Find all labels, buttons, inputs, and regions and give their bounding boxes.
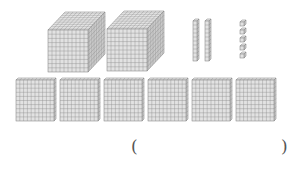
hundred-flat-4: [148, 78, 188, 121]
unit-cube-5: [240, 52, 246, 58]
answer-open-paren: (: [131, 138, 138, 155]
unit-cube-3: [240, 36, 246, 42]
unit-cube-2: [240, 28, 246, 34]
hundred-flat-1: [16, 78, 56, 121]
hundred-flat-3: [104, 78, 144, 121]
hundred-flat-5: [192, 78, 232, 121]
thousand-cube-1: [48, 12, 105, 72]
thousand-cube-2: [107, 11, 164, 71]
answer-blank[interactable]: [142, 138, 280, 156]
unit-cube-4: [240, 44, 246, 50]
ten-rod-1: [193, 19, 199, 61]
hundred-flat-6: [236, 78, 276, 121]
unit-cube-1: [240, 20, 246, 26]
answer-close-paren: ): [281, 138, 288, 155]
ten-rod-2: [205, 19, 211, 61]
hundred-flat-2: [60, 78, 100, 121]
